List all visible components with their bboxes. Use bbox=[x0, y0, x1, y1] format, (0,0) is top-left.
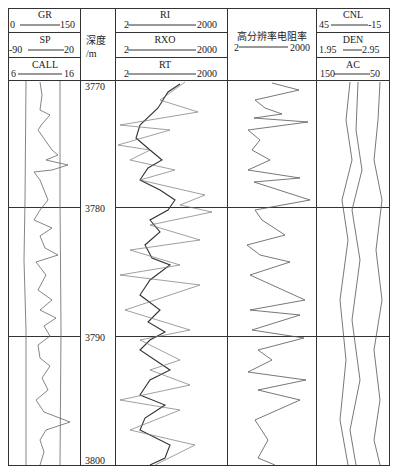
rxo-min: 2 bbox=[124, 45, 129, 55]
track2-curves-light bbox=[118, 82, 212, 465]
rt-min: 2 bbox=[124, 69, 129, 79]
den-max: 2.95 bbox=[362, 45, 380, 55]
track2-curves bbox=[136, 84, 180, 465]
cnl-max: -15 bbox=[368, 20, 381, 30]
depth-title: 深度 bbox=[86, 36, 106, 46]
cnl-min: 45 bbox=[319, 20, 329, 30]
depth-tick-3800: 3800 bbox=[85, 456, 105, 466]
track4-curves bbox=[340, 82, 382, 465]
hires-max: 2000 bbox=[290, 43, 310, 53]
hires-resistivity-label: 高分辨率电阻率 bbox=[232, 32, 312, 42]
depth-tick-3780: 3780 bbox=[85, 204, 105, 214]
den-min: 1.95 bbox=[319, 45, 337, 55]
rxo-max: 2000 bbox=[197, 45, 217, 55]
gr-label: GR bbox=[30, 10, 60, 20]
ac-max: 50 bbox=[370, 69, 380, 79]
ac-label: AC bbox=[338, 60, 368, 70]
call-min: 6 bbox=[11, 69, 16, 79]
depth-tick-3770: 3770 bbox=[85, 82, 105, 92]
gr-min: 0 bbox=[10, 20, 15, 30]
rt-max: 2000 bbox=[197, 69, 217, 79]
depth-tick-3790: 3790 bbox=[85, 333, 105, 343]
ri-min: 2 bbox=[124, 20, 129, 30]
ac-min: 150 bbox=[320, 69, 335, 79]
rt-label: RT bbox=[150, 60, 180, 70]
sp-max: 20 bbox=[64, 45, 74, 55]
gr-max: 150 bbox=[60, 20, 75, 30]
sp-label: SP bbox=[30, 35, 60, 45]
ri-max: 2000 bbox=[197, 20, 217, 30]
call-label: CALL bbox=[28, 60, 62, 70]
rxo-label: RXO bbox=[147, 35, 183, 45]
track3-curve bbox=[247, 83, 310, 465]
sp-min: -90 bbox=[9, 45, 22, 55]
cnl-label: CNL bbox=[338, 10, 368, 20]
hires-min: 2 bbox=[234, 43, 239, 53]
track1-curves bbox=[24, 81, 70, 465]
depth-unit: /m bbox=[86, 49, 97, 59]
call-max: 16 bbox=[64, 69, 74, 79]
ri-label: RI bbox=[150, 10, 180, 20]
